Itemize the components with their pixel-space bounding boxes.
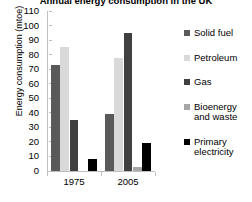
legend-label: Petroleum — [194, 53, 237, 64]
x-tick-mark — [155, 172, 156, 176]
bar — [60, 47, 69, 171]
y-tick-mark — [49, 11, 52, 12]
legend-item[interactable]: Primary electricity — [184, 137, 252, 158]
legend-swatch-icon — [184, 79, 190, 85]
chart-legend: Solid fuelPetroleumGasBioenergy and wast… — [184, 28, 252, 172]
legend-item[interactable]: Gas — [184, 77, 252, 88]
legend-label: Solid fuel — [194, 28, 233, 39]
legend-item[interactable]: Bioenergy and waste — [184, 102, 252, 123]
y-tick-label: 50 — [28, 92, 39, 103]
legend-label: Primary electricity — [194, 137, 252, 158]
y-tick-mark — [49, 25, 52, 26]
y-tick-mark — [49, 40, 52, 41]
x-tick-label: 1975 — [47, 176, 101, 187]
y-tick-label: 100 — [23, 20, 39, 31]
bar — [88, 159, 97, 171]
y-tick-label: 10 — [28, 150, 39, 161]
bar — [133, 167, 142, 171]
legend-item[interactable]: Solid fuel — [184, 28, 252, 39]
y-tick-label: 70 — [28, 63, 39, 74]
legend-swatch-icon — [184, 55, 190, 61]
y-tick-label: 0 — [34, 165, 39, 176]
legend-item[interactable]: Petroleum — [184, 53, 252, 64]
legend-swatch-icon — [184, 104, 190, 110]
legend-label: Bioenergy and waste — [194, 102, 252, 123]
plot-area: 1101009080706050403020100 19752005 — [47, 11, 155, 172]
legend-swatch-icon — [184, 139, 190, 145]
y-tick-label: 40 — [28, 107, 39, 118]
bar — [70, 120, 79, 171]
bar — [51, 65, 60, 171]
bar — [105, 114, 114, 171]
legend-swatch-icon — [184, 30, 190, 36]
bar-chart: Annual energy consumption in the UK Ener… — [0, 0, 252, 202]
y-tick-label: 20 — [28, 136, 39, 147]
y-axis-line — [47, 11, 48, 172]
y-tick-label: 110 — [24, 5, 39, 16]
y-tick-label: 60 — [28, 78, 39, 89]
y-tick-mark — [49, 54, 52, 55]
y-tick-label: 80 — [28, 49, 39, 60]
bar — [142, 143, 151, 171]
bar — [114, 58, 123, 171]
legend-label: Gas — [194, 77, 211, 88]
x-tick-label: 2005 — [101, 176, 155, 187]
y-tick-label: 90 — [28, 34, 39, 45]
bar — [124, 33, 133, 171]
x-tick-mark — [47, 172, 48, 176]
y-tick-label: 30 — [28, 121, 39, 132]
